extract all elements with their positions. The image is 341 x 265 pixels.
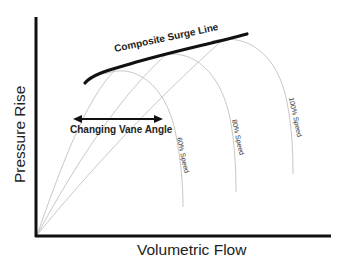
ray-80 (37, 53, 168, 235)
vane-angle-label: Changing Vane Angle (70, 124, 173, 135)
speed-label-80: 80% Speed (230, 119, 245, 156)
ray-100 (37, 38, 225, 235)
compressor-performance-diagram: Composite Surge Line Changing Vane Angle… (0, 0, 341, 265)
system-resistance-rays (37, 38, 225, 235)
speed-curve-100 (212, 39, 293, 174)
speed-label-60: 60% Speed (175, 137, 190, 174)
x-axis-label: Volumetric Flow (137, 241, 247, 258)
surge-line-label: Composite Surge Line (113, 21, 220, 54)
vane-angle-arrow (73, 115, 163, 123)
ray-60 (37, 70, 115, 235)
speed-curve-80 (155, 54, 236, 192)
speed-curve-60 (105, 71, 183, 207)
y-axis-label: Pressure Rise (11, 86, 28, 183)
